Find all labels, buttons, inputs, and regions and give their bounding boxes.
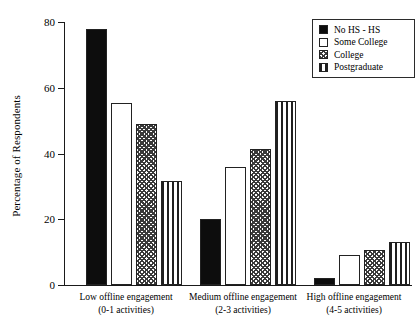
y-tick-label: 0 — [50, 280, 56, 291]
legend-label: College — [334, 50, 364, 60]
y-tick-mark — [58, 22, 64, 23]
y-tick-mark — [58, 219, 64, 220]
legend-label: Some College — [334, 37, 388, 47]
x-category-label-high: High offline engagement (4-5 activities) — [284, 291, 420, 316]
bar-group-medium — [200, 22, 306, 285]
legend-swatch-striped-icon — [319, 63, 328, 72]
bar-postgraduate[interactable] — [275, 101, 296, 285]
legend-swatch-solid-icon — [319, 25, 328, 34]
y-axis-title: Percentage of Respondents — [10, 56, 22, 256]
legend-swatch-checkered-icon — [319, 50, 328, 59]
bar-no-hs-hs[interactable] — [314, 278, 335, 285]
bar-no-hs-hs[interactable] — [86, 29, 107, 285]
legend-label: Postgraduate — [334, 62, 383, 72]
x-axis-line — [64, 285, 412, 286]
bar-postgraduate[interactable] — [161, 181, 182, 285]
x-category-line2: (4-5 activities) — [284, 304, 420, 317]
bar-some-college[interactable] — [339, 255, 360, 285]
y-tick-mark — [58, 285, 64, 286]
legend-item-college[interactable]: College — [319, 49, 414, 61]
x-category-line1: High offline engagement — [284, 291, 420, 304]
y-tick-label: 80 — [44, 17, 55, 28]
legend: No HS - HS Some College College Postgrad… — [312, 19, 415, 78]
y-tick-label: 40 — [44, 148, 55, 159]
bar-college[interactable] — [364, 250, 385, 285]
y-tick-mark — [58, 154, 64, 155]
bar-postgraduate[interactable] — [389, 242, 410, 285]
y-tick-label: 60 — [44, 82, 55, 93]
y-axis-line — [64, 22, 65, 286]
legend-label: No HS - HS — [334, 25, 380, 35]
legend-item-no-hs-hs[interactable]: No HS - HS — [319, 24, 414, 36]
bar-group-low — [86, 22, 192, 285]
y-tick-label: 20 — [44, 214, 55, 225]
legend-item-postgraduate[interactable]: Postgraduate — [319, 62, 414, 74]
bar-some-college[interactable] — [225, 167, 246, 285]
bar-no-hs-hs[interactable] — [200, 219, 221, 285]
legend-swatch-open-icon — [319, 38, 328, 47]
bar-chart: Percentage of Respondents 0 20 40 60 — [0, 0, 420, 331]
legend-item-some-college[interactable]: Some College — [319, 37, 414, 49]
bar-college[interactable] — [250, 149, 271, 285]
bar-some-college[interactable] — [111, 103, 132, 285]
bar-college[interactable] — [136, 124, 157, 285]
y-tick-mark — [58, 88, 64, 89]
